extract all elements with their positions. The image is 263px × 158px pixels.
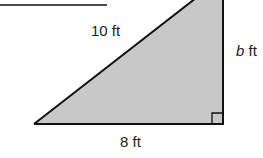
height-label: b ft: [236, 43, 257, 58]
triangle-fill: [34, 0, 223, 124]
base-label: 8 ft: [120, 134, 141, 149]
height-unit: ft: [244, 42, 257, 59]
hypotenuse-label: 10 ft: [91, 23, 120, 38]
